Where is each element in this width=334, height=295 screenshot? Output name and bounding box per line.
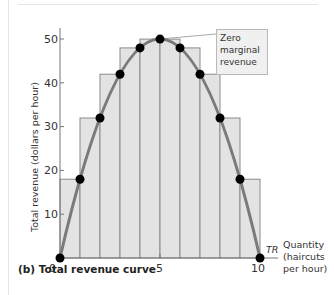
y-tick-label: 20 <box>44 164 58 177</box>
tr-curve-label: TR <box>266 244 278 255</box>
x-axis-title-line: (haircuts <box>283 251 327 263</box>
note-line: revenue <box>220 56 264 68</box>
y-tick-label: 40 <box>44 77 58 90</box>
x-axis-title: Quantity (haircuts per hour) <box>283 239 327 275</box>
data-point <box>256 254 265 263</box>
data-point <box>136 43 145 52</box>
chart-caption: (b) Total revenue curve <box>18 263 156 275</box>
step-rect <box>100 74 120 258</box>
step-rect <box>160 39 180 258</box>
data-point <box>116 70 125 79</box>
zero-marginal-revenue-note: Zero marginal revenue <box>216 29 268 75</box>
data-point <box>216 114 225 123</box>
x-axis-title-line: Quantity <box>283 239 327 251</box>
step-rect <box>120 48 140 258</box>
data-point <box>96 114 105 123</box>
y-tick-label: 50 <box>44 33 58 46</box>
step-rect <box>180 48 200 258</box>
step-rect <box>80 118 100 258</box>
note-leader-line <box>160 34 216 39</box>
y-axis-title: Total revenue (dollars per hour) <box>29 82 40 233</box>
step-rect <box>220 118 240 258</box>
step-rect <box>200 74 220 258</box>
data-point <box>176 43 185 52</box>
note-line: marginal <box>220 44 264 56</box>
data-point <box>156 35 165 44</box>
data-point <box>56 254 65 263</box>
step-rect <box>140 39 160 258</box>
x-axis-title-line: per hour) <box>283 263 327 275</box>
x-tick-label: 5 <box>156 262 163 275</box>
data-point <box>196 70 205 79</box>
y-tick-label: 30 <box>44 120 58 133</box>
y-tick-label: 10 <box>44 208 58 221</box>
note-line: Zero <box>220 32 264 44</box>
x-tick-label: 10 <box>251 262 265 275</box>
data-point <box>76 175 85 184</box>
data-point <box>236 175 245 184</box>
